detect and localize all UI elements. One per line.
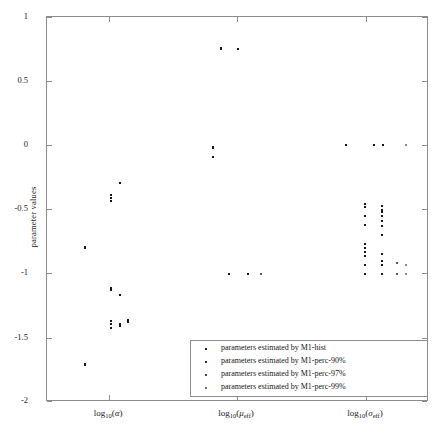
data-point [381,234,383,236]
x-tick-label-mu-eff: log10(μeff) [218,408,254,419]
data-point [364,251,366,253]
data-point [405,144,407,146]
legend-item: parameters estimated by M1-perc-99% [191,380,427,393]
data-point [381,225,383,227]
data-point [381,260,383,262]
data-point [364,243,366,245]
data-point [381,211,383,213]
data-point [110,323,112,325]
data-point [381,220,383,222]
data-point [237,48,239,50]
legend-marker-icon [199,378,213,396]
y-tick-label: -1 [21,268,28,277]
scatter-figure: parameter values 1 0.5 0 -0.5 -1 -1.5 -2 [0,0,443,434]
legend-label: parameters estimated by M1-perc-97% [221,369,346,379]
legend-label: parameters estimated by M1-perc-90% [221,356,346,366]
legend-label: parameters estimated by M1-perc-99% [221,382,346,392]
data-point [228,273,230,275]
data-point [119,294,121,296]
data-point [381,215,383,217]
data-point [405,273,407,275]
data-point [119,182,121,184]
y-tick-label: 0 [24,140,28,149]
data-point [364,206,366,208]
y-tick-label: 1 [24,12,28,21]
data-point [119,325,121,327]
data-point [364,273,366,275]
data-point [381,264,383,266]
data-point [396,262,398,264]
data-point [382,144,384,146]
data-point [364,264,366,266]
y-tick-label: 0.5 [17,76,28,85]
legend-item: parameters estimated by M1-perc-90% [191,354,427,367]
data-point [381,205,383,207]
legend-box: parameters estimated by M1-hist paramete… [190,340,428,397]
y-tick-label: -0.5 [15,204,28,213]
x-tick-label-group: log10(α) log10(μeff) log10(σeff) [0,401,443,434]
data-point [381,273,383,275]
data-point [364,224,366,226]
y-tick-label: -1.5 [15,333,28,342]
data-point [373,144,375,146]
legend-label: parameters estimated by M1-hist [221,343,326,353]
data-point [364,215,366,217]
data-point [345,144,347,146]
x-tick-label-alpha: log10(α) [94,408,123,419]
data-point [381,253,383,255]
data-point [260,273,262,275]
data-point [364,255,366,257]
data-point [247,273,249,275]
data-point [127,321,129,323]
legend-item: parameters estimated by M1-perc-97% [191,367,427,380]
legend-item: parameters estimated by M1-hist [191,341,427,354]
data-point [396,273,398,275]
data-point [212,147,214,149]
data-point [110,200,112,202]
data-point [212,156,214,158]
data-point [84,247,86,249]
y-tick-label-group: 1 0.5 0 -0.5 -1 -1.5 -2 [0,0,46,434]
data-point [110,327,112,329]
x-tick-label-sigma-eff: log10(σeff) [347,408,383,419]
data-point [405,264,407,266]
data-point [84,364,86,366]
data-point [220,47,222,49]
data-point [110,289,112,291]
data-point [364,247,366,249]
